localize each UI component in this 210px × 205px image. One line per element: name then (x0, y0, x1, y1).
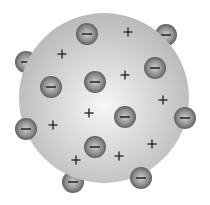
electron (76, 23, 98, 45)
electron (15, 118, 37, 140)
electron (40, 76, 62, 98)
plum-pudding-diagram (0, 0, 210, 205)
electron (84, 136, 106, 158)
electron (84, 71, 106, 93)
atom-model-canvas (0, 0, 210, 205)
electron (130, 167, 152, 189)
electron (144, 57, 166, 79)
electron (114, 106, 136, 128)
electron (174, 107, 196, 129)
